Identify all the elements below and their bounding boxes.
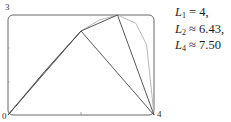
y-max-label: 3 [5, 2, 10, 12]
origin-label: 0 [2, 111, 7, 121]
legend-L1: L1 = 4, [175, 6, 224, 23]
polygon-L2 [8, 31, 154, 115]
curve [8, 15, 154, 115]
polygon-L4 [8, 15, 154, 115]
x-max-label: 4 [157, 109, 162, 119]
length-legend: L1 = 4, L2 ≈ 6.43, L4 ≈ 7.50 [175, 6, 224, 56]
legend-L4: L4 ≈ 7.50 [175, 39, 224, 56]
legend-L2: L2 ≈ 6.43, [175, 23, 224, 40]
plot-frame [8, 15, 154, 115]
